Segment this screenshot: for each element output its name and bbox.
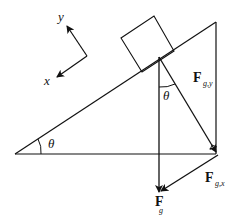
gravity-x-label: F (205, 170, 214, 185)
y-axis-arrow (67, 26, 87, 56)
block (121, 16, 174, 72)
gravity-y-label: F (193, 70, 202, 85)
gravity-x-subscript: g,x (215, 179, 225, 188)
x-axis-label: x (43, 73, 50, 88)
coordinate-axes: y x (43, 9, 87, 88)
incline-angle-label: θ (48, 136, 55, 151)
x-axis-arrow (57, 56, 87, 77)
gravity-y-subscript: g,y (203, 79, 213, 88)
gravity-subscript: g (159, 206, 163, 215)
inclined-plane (15, 22, 216, 154)
force-angle-label: θ (163, 88, 170, 103)
y-axis-label: y (56, 9, 64, 24)
gravity-y-arrow (159, 57, 216, 152)
incline-diagram: y x θ θ F g,y F g,x F g (0, 0, 233, 219)
